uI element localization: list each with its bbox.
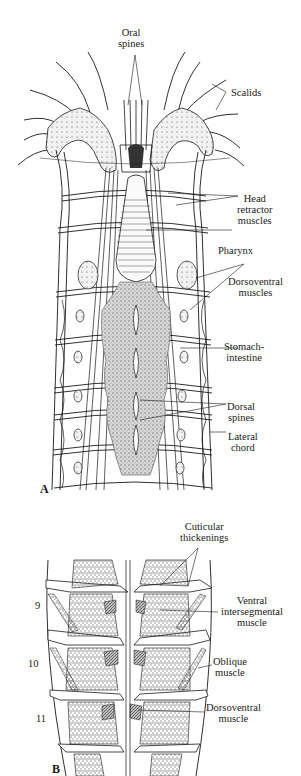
label-line: intestine xyxy=(224,352,264,363)
label-oblique-muscle: Oblique muscle xyxy=(213,656,247,678)
label-line: Oral xyxy=(118,27,144,38)
label-line: muscle xyxy=(206,713,261,724)
label-line: muscle xyxy=(221,617,283,628)
panel-b-drawing xyxy=(0,0,301,776)
label-line: Pharynx xyxy=(218,245,253,256)
label-stomach-intestine: Stomach- intestine xyxy=(224,341,264,363)
label-pharynx: Pharynx xyxy=(218,245,253,256)
label-line: Scalids xyxy=(231,87,261,98)
label-line: intersegmental xyxy=(221,606,283,617)
label-line: chord xyxy=(228,442,258,453)
panel-letter-a: A xyxy=(40,482,49,497)
label-line: Oblique xyxy=(213,656,247,667)
label-lateral-chord: Lateral chord xyxy=(228,431,258,453)
label-line: Head xyxy=(237,193,273,204)
label-scalids: Scalids xyxy=(231,87,261,98)
label-dorsal-spines: Dorsal spines xyxy=(227,401,255,423)
segment-number-9: 9 xyxy=(35,600,40,611)
segment-number-11: 11 xyxy=(36,713,46,724)
label-cuticular-thickenings: Cuticular thickenings xyxy=(180,521,228,543)
label-line: muscles xyxy=(228,287,283,298)
label-oral-spines: Oral spines xyxy=(118,27,144,49)
label-dorsoventral-muscles: Dorsoventral muscles xyxy=(228,276,283,298)
label-line: Stomach- xyxy=(224,341,264,352)
label-line: muscles xyxy=(237,215,273,226)
label-line: muscle xyxy=(213,667,247,678)
label-line: spines xyxy=(118,38,144,49)
label-dorsoventral-muscle: Dorsoventral muscle xyxy=(206,702,261,724)
anatomy-figure: Oral spines Scalids Head retractor muscl… xyxy=(0,0,301,776)
label-ventral-intersegmental-muscle: Ventral intersegmental muscle xyxy=(221,595,283,628)
label-line: Dorsal xyxy=(227,401,255,412)
label-head-retractor-muscles: Head retractor muscles xyxy=(237,193,273,226)
label-line: Dorsoventral xyxy=(228,276,283,287)
label-line: spines xyxy=(227,412,255,423)
label-line: Dorsoventral xyxy=(206,702,261,713)
label-line: Ventral xyxy=(221,595,283,606)
segment-number-10: 10 xyxy=(28,658,39,669)
label-line: Cuticular xyxy=(180,521,228,532)
label-line: retractor xyxy=(237,204,273,215)
label-line: Lateral xyxy=(228,431,258,442)
label-line: thickenings xyxy=(180,532,228,543)
panel-letter-b: B xyxy=(52,762,60,776)
